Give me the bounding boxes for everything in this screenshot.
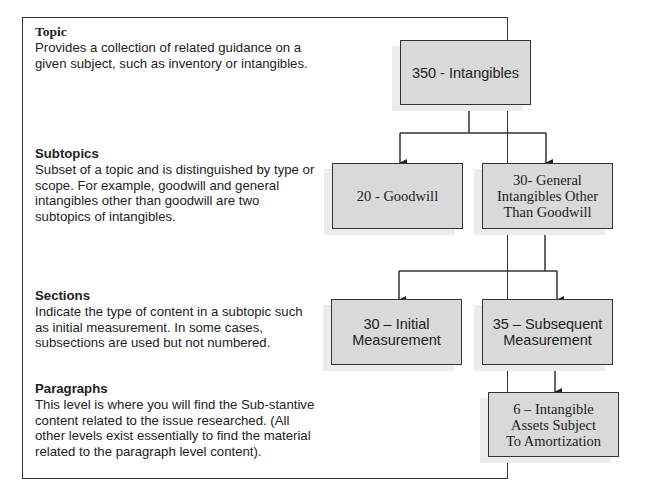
node-label: 30 – Initial Measurement [352,316,441,348]
node-label: 6 – Intangible Assets Subject To Amortiz… [506,401,601,449]
node-subtopic-general-intangibles: 30- General Intangibles Other Than Goodw… [482,163,613,229]
node-paragraph: 6 – Intangible Assets Subject To Amortiz… [488,392,619,457]
node-label: 350 - Intangibles [412,65,519,81]
node-section-subsequent: 35 – Subsequent Measurement [482,299,613,365]
node-label: 30- General Intangibles Other Than Goodw… [497,172,598,220]
node-label: 35 – Subsequent Measurement [493,316,603,348]
node-label: 20 - Goodwill [357,188,438,204]
node-topic: 350 - Intangibles [400,40,531,105]
node-subtopic-goodwill: 20 - Goodwill [332,163,463,229]
node-section-initial: 30 – Initial Measurement [331,299,462,365]
